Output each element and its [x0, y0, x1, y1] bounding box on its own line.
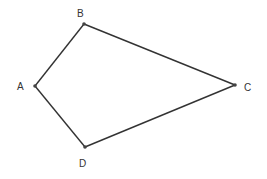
vertices [33, 22, 237, 149]
edge-AB [35, 24, 84, 86]
edge-DA [35, 86, 85, 147]
quadrilateral-diagram: ABCD [0, 0, 267, 179]
vertex-label-C: C [244, 82, 251, 93]
vertex-D [83, 145, 87, 149]
edge-CD [85, 85, 235, 147]
vertex-B [82, 22, 86, 26]
vertex-C [233, 83, 237, 87]
edges [35, 24, 235, 147]
vertex-label-A: A [17, 81, 24, 92]
edge-BC [84, 24, 235, 85]
labels: ABCD [17, 8, 251, 169]
vertex-A [33, 84, 37, 88]
vertex-label-B: B [77, 8, 84, 19]
vertex-label-D: D [79, 158, 86, 169]
